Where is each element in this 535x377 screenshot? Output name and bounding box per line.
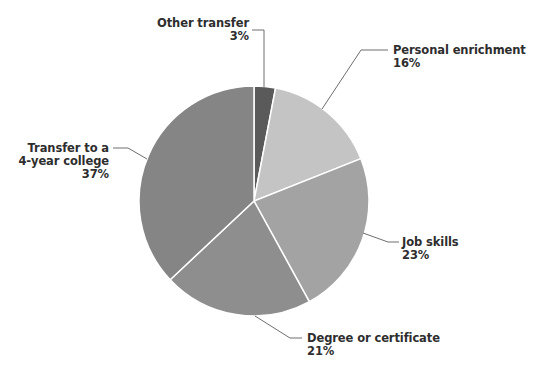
label-transfer-4yr: Transfer to a 4-year college 37% bbox=[18, 142, 109, 181]
leader-line-job-skills bbox=[363, 233, 399, 242]
label-degree-value: 21% bbox=[307, 345, 440, 358]
label-job-skills-value: 23% bbox=[402, 249, 459, 262]
label-personal-enrichment-value: 16% bbox=[393, 57, 526, 70]
leader-line-degree bbox=[255, 316, 302, 338]
label-degree: Degree or certificate 21% bbox=[307, 332, 440, 358]
pie-slices bbox=[139, 86, 369, 316]
label-other-transfer: Other transfer 3% bbox=[157, 17, 249, 43]
leader-line-personal-enrichment bbox=[322, 50, 388, 109]
label-personal-enrichment: Personal enrichment 16% bbox=[393, 44, 526, 70]
leader-line-transfer-4yr bbox=[113, 148, 147, 159]
leader-line-other-transfer bbox=[252, 30, 264, 87]
label-job-skills: Job skills 23% bbox=[402, 236, 459, 262]
label-transfer-4yr-value: 37% bbox=[18, 168, 109, 181]
label-other-transfer-value: 3% bbox=[157, 30, 249, 43]
